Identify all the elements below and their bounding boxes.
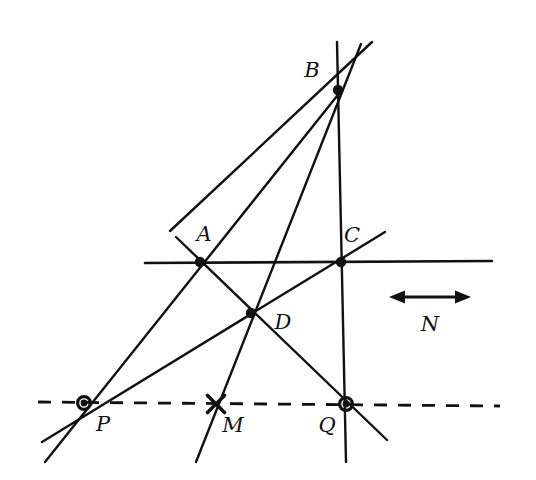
- point-label-q: Q: [318, 415, 335, 436]
- point-label-m: M: [222, 415, 244, 436]
- filled-dot-icon: [246, 308, 256, 318]
- point-label-c: C: [344, 225, 360, 246]
- point-label-d: D: [275, 312, 292, 333]
- point-marker-d: [246, 308, 256, 318]
- direction-label-n: N: [421, 314, 439, 335]
- inner-dot-icon: [81, 400, 88, 407]
- point-marker-b: [333, 85, 343, 95]
- point-marker-c: [336, 257, 346, 267]
- point-label-p: P: [96, 414, 110, 435]
- line-A-through-D-to-Q: [176, 237, 387, 440]
- arrow-head-right-icon: [455, 291, 471, 304]
- point-label-b: B: [304, 60, 319, 81]
- filled-dot-icon: [333, 85, 343, 95]
- point-label-a: A: [196, 224, 211, 245]
- point-marker-a: [195, 257, 205, 267]
- line-through-A-and-B: [170, 42, 372, 231]
- filled-dot-icon: [195, 257, 205, 267]
- arrow-head-left-icon: [389, 291, 405, 304]
- geometry-canvas: [0, 0, 536, 480]
- segments-layer: [38, 42, 500, 462]
- geometry-figure: ABCDPMQN: [0, 0, 536, 480]
- filled-dot-icon: [336, 257, 346, 267]
- inner-dot-icon: [343, 401, 350, 408]
- direction-arrow-n: [389, 291, 471, 304]
